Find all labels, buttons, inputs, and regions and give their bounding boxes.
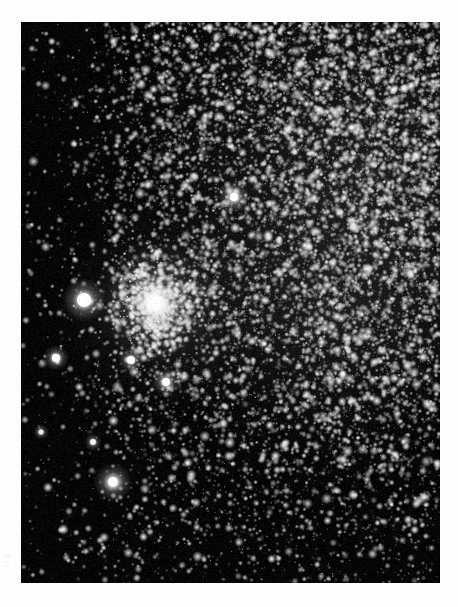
left-margin-artifact-1	[4, 556, 11, 557]
star-field-plate	[21, 22, 440, 583]
photograph-page: Dense monochrome star field containing a…	[0, 0, 458, 607]
left-margin-artifact-2	[3, 561, 8, 562]
left-margin-artifact-3	[5, 566, 9, 567]
sky-canvas	[21, 22, 440, 583]
